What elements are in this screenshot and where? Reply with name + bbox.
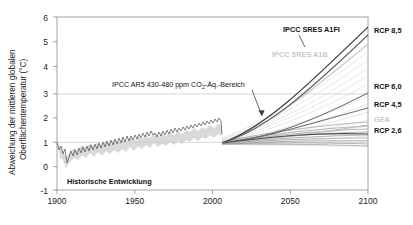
svg-text:IPCC SRES A1B: IPCC SRES A1B [272,50,328,59]
y-tick-4: 4 [43,62,48,72]
ann-ar5-text1: IPCC AR5 430-480 ppm CO [112,80,202,89]
label-rcp-26: RCP 2,6 [374,126,401,135]
y-tick-3: 3 [43,89,48,99]
y-tick-2: 2 [43,113,48,123]
chart-svg: 6 5 4 3 2 1 0 -1 Abweichung der mittlere… [0,0,413,225]
label-gea: GEA [374,115,391,124]
y-tick-6: 6 [43,13,48,23]
y-axis-title-line2: Oberflächentemperatur (°C) [19,59,28,160]
label-rcp-45: RCP 4,5 [374,100,401,109]
annotation-ipcc-sres-a1b: IPCC SRES A1B [272,50,328,59]
label-rcp-85: RCP 8,5 [374,26,401,35]
x-tick-2100: 2100 [359,196,378,206]
ann-ar5-text2: -Äq.-Bereich [205,80,245,89]
x-tick-2000: 2000 [203,196,222,206]
x-tick-2050: 2050 [281,196,300,206]
svg-text:Historische Entwicklung: Historische Entwicklung [67,177,152,186]
y-tick-neg1: -1 [40,186,48,196]
y-axis-title-line1: Abweichung der mittleren globalen [8,49,17,175]
label-rcp-60: RCP 6,0 [374,82,401,91]
x-tick-1950: 1950 [125,196,144,206]
x-tick-1900: 1900 [48,196,67,206]
annotation-historische-entwicklung: Historische Entwicklung [67,177,152,186]
svg-text:IPCC AR5 430-480 ppm CO2-Äq.-B: IPCC AR5 430-480 ppm CO2-Äq.-Bereich [112,80,245,90]
y-tick-1: 1 [43,138,48,148]
svg-text:IPCC SRES A1FI: IPCC SRES A1FI [283,25,340,34]
climate-projection-chart: 6 5 4 3 2 1 0 -1 Abweichung der mittlere… [0,0,413,225]
y-tick-0: 0 [43,162,48,172]
y-tick-5: 5 [43,37,48,47]
